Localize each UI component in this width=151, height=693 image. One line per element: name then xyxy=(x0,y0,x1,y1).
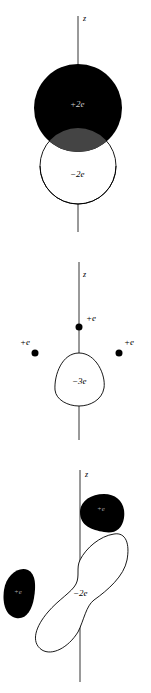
point-charge-top-label: +e xyxy=(86,313,96,323)
panel-2-diagram xyxy=(0,240,151,460)
positive-charge-lower-label: +e xyxy=(14,588,22,596)
positive-charge-blob-upper xyxy=(80,494,124,532)
panel-2: z +e +e +e −3e xyxy=(0,240,151,460)
point-charge-left xyxy=(32,350,39,357)
positive-charge-label: +2e xyxy=(70,99,85,109)
negative-charge-label: −3e xyxy=(72,376,87,386)
positive-charge-upper-label: +e xyxy=(97,505,105,513)
panel-3: z +e +e −2e xyxy=(0,460,151,693)
point-charge-top xyxy=(76,324,83,331)
axis-label-z: z xyxy=(83,14,86,23)
panel-1: z +2e −2e xyxy=(0,0,151,240)
point-charge-right-label: +e xyxy=(124,337,134,347)
point-charge-left-label: +e xyxy=(20,337,30,347)
axis-label-z: z xyxy=(85,470,88,479)
negative-charge-label: −2e xyxy=(70,169,85,179)
panel-3-diagram xyxy=(0,460,151,693)
point-charge-right xyxy=(116,350,123,357)
axis-label-z: z xyxy=(83,270,86,279)
panel-1-diagram xyxy=(0,0,151,240)
negative-charge-label: −2e xyxy=(73,588,88,598)
